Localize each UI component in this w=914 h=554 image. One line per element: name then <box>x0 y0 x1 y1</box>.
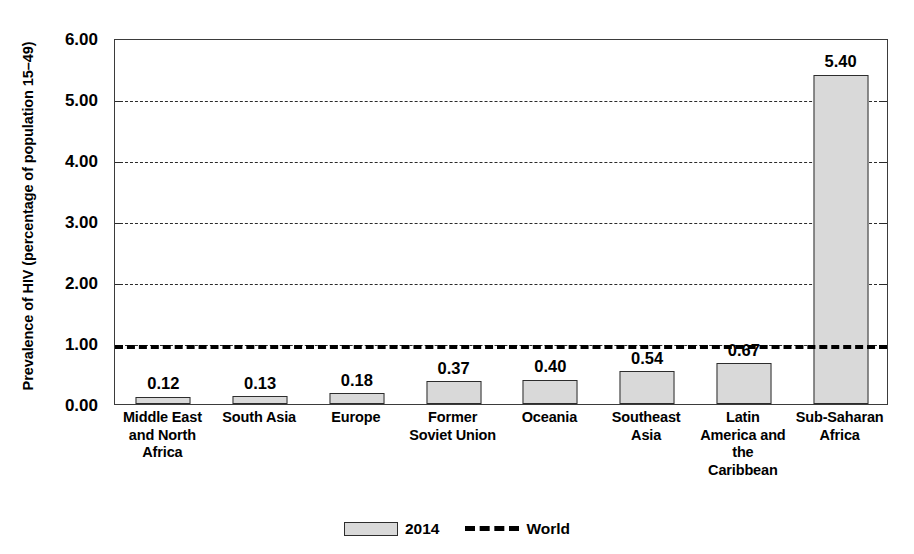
x-axis-category-labels: Middle Eastand NorthAfricaSouth AsiaEuro… <box>114 409 888 509</box>
y-axis-title: Prevalence of HIV (percentage of populat… <box>20 6 36 426</box>
bar-slot: 0.67 <box>696 40 793 404</box>
x-axis-category-label-line: Soviet Union <box>404 427 501 445</box>
y-axis-tick-label: 5.00 <box>65 92 98 109</box>
x-axis-category-label-line: Africa <box>114 444 211 462</box>
y-axis-tick-labels: 0.001.002.003.004.005.006.00 <box>40 39 106 405</box>
x-axis-category-label-line: Southeast <box>598 409 695 427</box>
bar-value-label: 0.18 <box>341 372 373 389</box>
bar-slot: 5.40 <box>792 40 889 404</box>
legend-item[interactable]: World <box>465 521 570 537</box>
legend-bar-swatch-icon <box>344 522 398 536</box>
x-axis-category-label-line: Oceania <box>501 409 598 427</box>
legend-dashed-line-swatch-icon <box>465 526 519 531</box>
y-axis-tick-label: 3.00 <box>65 214 98 231</box>
bar[interactable] <box>136 397 191 404</box>
x-axis-category-label-line: Former <box>404 409 501 427</box>
x-axis-category-label-line: America and <box>695 427 792 445</box>
bar-slot: 0.18 <box>309 40 406 404</box>
bars-layer: 0.120.130.180.370.400.540.675.40 <box>115 40 887 404</box>
x-axis-category-label: Middle Eastand NorthAfrica <box>114 409 211 462</box>
chart-legend: 2014World <box>0 521 914 537</box>
bar-slot: 0.37 <box>405 40 502 404</box>
y-axis-tick-label: 6.00 <box>65 31 98 48</box>
x-axis-category-label-line: Latin <box>695 409 792 427</box>
bar-value-label: 0.40 <box>534 358 566 375</box>
bar[interactable] <box>329 393 384 404</box>
bar[interactable] <box>233 396 288 404</box>
x-axis-category-label-line: Europe <box>308 409 405 427</box>
bar[interactable] <box>620 371 675 404</box>
bar-slot: 0.12 <box>115 40 212 404</box>
x-axis-category-label-line: Caribbean <box>695 462 792 480</box>
y-axis-tick-label: 1.00 <box>65 336 98 353</box>
x-axis-category-label-line: Middle East <box>114 409 211 427</box>
bar[interactable] <box>813 75 868 404</box>
legend-label: 2014 <box>405 521 439 537</box>
x-axis-category-label-line: South Asia <box>211 409 308 427</box>
legend-item[interactable]: 2014 <box>344 521 439 537</box>
x-axis-category-label: FormerSoviet Union <box>404 409 501 444</box>
y-axis-tick-label: 4.00 <box>65 153 98 170</box>
bar-value-label: 0.13 <box>244 375 276 392</box>
x-axis-category-label-line: the <box>695 444 792 462</box>
x-axis-category-label: LatinAmerica andtheCaribbean <box>695 409 792 480</box>
y-axis-tick-label: 0.00 <box>65 397 98 414</box>
x-axis-category-label-line: and North <box>114 427 211 445</box>
bar-value-label: 5.40 <box>825 53 857 70</box>
x-axis-category-label: Oceania <box>501 409 598 427</box>
y-axis-tick-label: 2.00 <box>65 275 98 292</box>
x-axis-category-label: Sub-SaharanAfrica <box>791 409 888 444</box>
bar[interactable] <box>426 381 481 404</box>
x-axis-category-label: South Asia <box>211 409 308 427</box>
bar-value-label: 0.12 <box>147 375 179 392</box>
x-axis-category-label: Europe <box>308 409 405 427</box>
bar[interactable] <box>716 363 771 404</box>
bar-value-label: 0.54 <box>631 350 663 367</box>
world-reference-line <box>115 345 887 349</box>
bar-slot: 0.13 <box>212 40 309 404</box>
bar-slot: 0.40 <box>502 40 599 404</box>
plot-area: 0.120.130.180.370.400.540.675.40 <box>114 39 888 405</box>
hiv-prevalence-bar-chart: Prevalence of HIV (percentage of populat… <box>0 0 914 554</box>
x-axis-category-label-line: Sub-Saharan <box>791 409 888 427</box>
bar-slot: 0.54 <box>599 40 696 404</box>
x-axis-category-label: SoutheastAsia <box>598 409 695 444</box>
legend-label: World <box>526 521 570 537</box>
bar-value-label: 0.37 <box>438 360 470 377</box>
x-axis-category-label-line: Asia <box>598 427 695 445</box>
bar[interactable] <box>523 380 578 404</box>
x-axis-category-label-line: Africa <box>791 427 888 445</box>
